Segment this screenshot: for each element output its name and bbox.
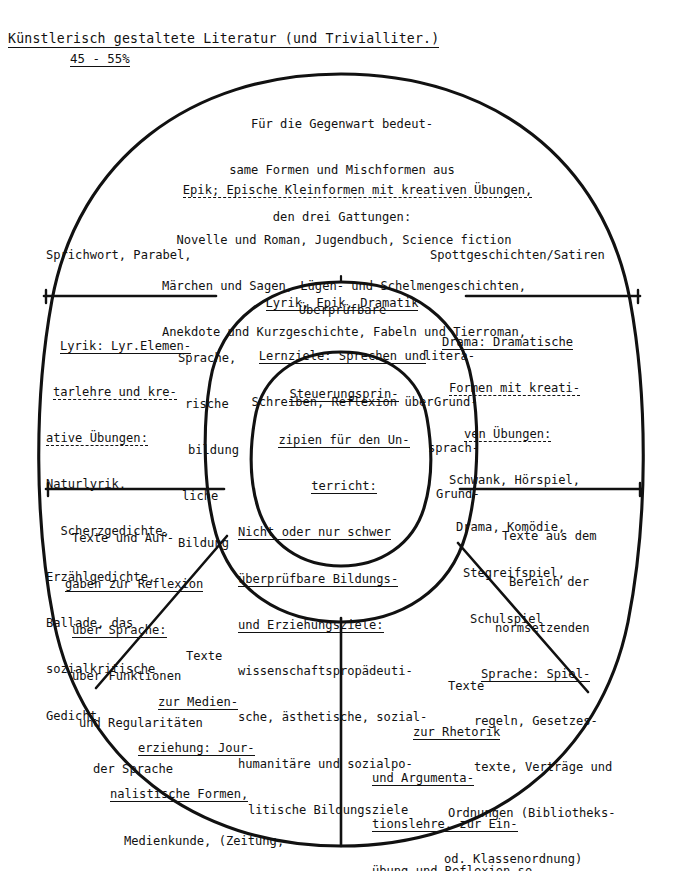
bl-head-4: nalistische Formen, [110, 787, 248, 802]
title-sub-text: 45 - 55% [70, 51, 130, 67]
core-sub-1: Nicht oder nur schwer [238, 525, 391, 540]
top-head-line-1: Für die Gegenwart bedeut- [152, 117, 532, 133]
core-sub-2: überprüfbare Bildungs- [238, 572, 398, 587]
title-main-text: Künstlerisch gestaltete Literatur (und T… [8, 31, 439, 48]
core-head-2: zipien für den Un- [278, 433, 409, 448]
rightmid-head-1: Texte aus dem [474, 529, 674, 544]
medienerziehung-segment: Texte zur Medien- erziehung: Jour- nalis… [96, 618, 326, 871]
title-sub-wrap: 45 - 55% [8, 48, 468, 67]
epik-heading-text: Epik; Epische Kleinformen mit kreativen … [183, 183, 533, 198]
rhetorik-segment: Texte zur Rhetorik und Argumenta- tionsl… [372, 648, 602, 871]
core-head-1: Steuerungsprin- [289, 387, 398, 402]
lyrik-head-2: tarlehre und kre- [53, 385, 177, 400]
epik-spott: Spottgeschichten/Satiren [430, 248, 630, 263]
lyrik-head-1: Lyrik: Lyr.Elemen- [60, 339, 191, 354]
epik-list-line-1: Novelle und Roman, Jugendbuch, Science f… [118, 233, 570, 248]
bl-head-3: erziehung: Jour- [138, 741, 255, 756]
core-head-3: terricht: [311, 479, 377, 494]
page-title: Künstlerisch gestaltete Literatur (und T… [8, 28, 468, 67]
br-head-2: zur Rhetorik [413, 725, 500, 740]
onion-diagram: Künstlerisch gestaltete Literatur (und T… [0, 0, 683, 871]
rightmid-head-3: normsetzenden [474, 621, 674, 636]
lyrik-head-3: ative Übungen: [46, 431, 148, 446]
br-head-5: übung und Reflexion so- [372, 864, 539, 871]
epik-sprichwort: Sprichwort, Parabel, [46, 248, 246, 263]
rightmid-head-2: Bereich der [474, 575, 674, 590]
ring-middle-line-1: Überprüfbare [235, 303, 450, 318]
br-head-1: Texte [372, 679, 602, 694]
bl-body-1: Medienkunde, (Zeitung, [96, 834, 326, 849]
br-head-4: tionslehre, zur Ein- [372, 817, 518, 832]
bl-head-2: zur Medien- [158, 695, 238, 710]
leftmid-head-2: gaben zur Reflexion [65, 577, 203, 592]
leftmid-head-1: Texte und Auf- [58, 531, 258, 546]
br-head-3: und Argumenta- [372, 771, 474, 786]
bl-head-1: Texte [96, 649, 326, 664]
